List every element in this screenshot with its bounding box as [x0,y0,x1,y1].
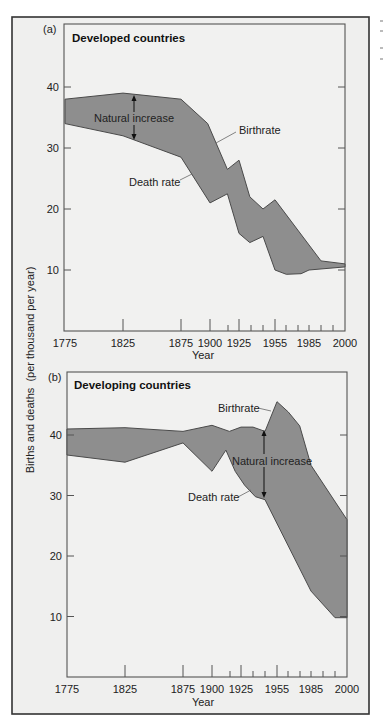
x-tick-label: 2000 [335,683,359,695]
demographic-transition-figure: Births and deaths (per thousand per year… [0,0,383,725]
birthrate-label-b: Birthrate [218,402,260,414]
x-tick-label: 1875 [171,683,195,695]
x-tick-label: 1955 [263,337,287,349]
birthrate-label-a: Birthrate [239,124,281,136]
y-tick-label: 20 [47,203,59,215]
y-axis-label: Births and deaths (per thousand per year… [24,267,36,474]
y-tick-label: 40 [47,81,59,93]
x-tick-label: 1925 [227,337,251,349]
panel-title-b: Developing countries [74,379,191,391]
panel-title-a: Developed countries [72,32,185,44]
x-tick-label: 1825 [113,683,137,695]
x-tick-label: 1985 [299,683,323,695]
y-tick-label: 30 [47,142,59,154]
y-tick-label: 30 [50,490,62,502]
panel-developing-countries: (b) Developing countries 102030401775182… [48,371,359,708]
y-tick-label: 20 [50,550,62,562]
x-tick-label: 1900 [198,337,222,349]
x-axis-title-b: Year [192,696,215,708]
natural-increase-label-a: Natural increase [94,112,174,124]
y-tick-label: 10 [47,264,59,276]
death-rate-label-a: Death rate [129,176,180,188]
x-tick-label: 1955 [265,683,289,695]
x-tick-label: 1775 [53,337,77,349]
x-tick-label: 1825 [111,337,135,349]
x-tick-label: 1900 [200,683,224,695]
x-tick-label: 1875 [169,337,193,349]
x-tick-label: 1985 [297,337,321,349]
death-rate-label-b: Death rate [188,491,239,503]
x-tick-label: 1775 [55,683,79,695]
panel-letter-a: (a) [43,23,56,35]
x-tick-label: 1925 [229,683,253,695]
y-tick-label: 10 [50,611,62,623]
x-tick-label: 2000 [333,337,357,349]
panel-developed-countries: (a) Developed countries 1020304017751825… [43,23,357,361]
y-tick-label: 40 [50,429,62,441]
x-axis-title-a: Year [192,349,215,361]
natural-increase-label-b: Natural increase [232,455,312,467]
panel-letter-b: (b) [48,371,61,383]
